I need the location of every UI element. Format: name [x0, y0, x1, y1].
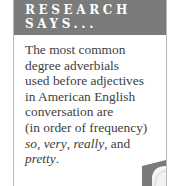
adverb-so: so: [25, 136, 37, 151]
adverb-really: really: [73, 136, 104, 151]
body-line: (in order of frequency): [25, 120, 166, 136]
page-curl-icon: [142, 160, 166, 186]
body-line: The most common: [25, 42, 166, 58]
body-line: conversation are: [25, 104, 166, 120]
body-line-adverbs: so, very, really, and: [25, 136, 166, 152]
adverb-pretty: pretty: [25, 151, 56, 166]
box-header: RESEARCH SAYS...: [14, 0, 166, 35]
header-line-1: RESEARCH: [25, 3, 166, 17]
body-line: in American English: [25, 89, 166, 105]
header-line-2: SAYS...: [25, 17, 166, 31]
box-body: The most common degree adverbials used b…: [14, 35, 166, 167]
body-line: degree adverbials: [25, 58, 166, 74]
adverb-very: very: [44, 136, 67, 151]
research-says-box: RESEARCH SAYS... The most common degree …: [13, 0, 167, 186]
body-line: used before adjectives: [25, 73, 166, 89]
